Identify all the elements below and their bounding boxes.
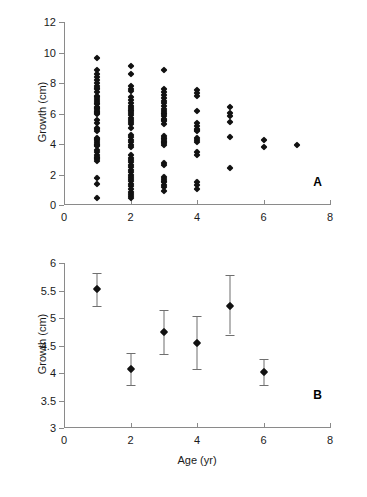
data-point <box>93 285 101 293</box>
x-tick-label: 6 <box>260 435 266 446</box>
data-point <box>126 365 134 373</box>
data-point <box>193 139 200 146</box>
y-tick <box>59 318 64 319</box>
y-tick <box>59 373 64 374</box>
data-point <box>193 339 201 347</box>
data-point <box>227 134 234 141</box>
y-tick-label: 6 <box>50 108 56 119</box>
x-axis-label-b: Age (yr) <box>177 454 216 466</box>
y-tick <box>59 53 64 54</box>
y-tick <box>59 291 64 292</box>
figure-container: 024681012 02468 Growth (cm) A 33.544.555… <box>0 0 367 497</box>
panel-a: 024681012 02468 Growth (cm) A <box>0 0 367 245</box>
x-tick-label: 8 <box>327 212 333 223</box>
data-point <box>226 302 234 310</box>
data-point <box>94 195 101 202</box>
plot-area-a: 024681012 02468 Growth (cm) A <box>64 22 330 205</box>
y-tick-label: 4 <box>50 368 56 379</box>
panel-b: 33.544.555.56 02468 Growth (cm) Age (yr)… <box>0 245 367 497</box>
error-bar-cap <box>93 273 102 274</box>
y-tick-label: 4 <box>50 139 56 150</box>
x-tick-label: 8 <box>327 435 333 446</box>
panel-label-a: A <box>313 175 322 189</box>
y-tick-label: 0 <box>50 200 56 211</box>
x-tick <box>264 423 265 428</box>
y-tick <box>59 144 64 145</box>
data-point <box>259 368 267 376</box>
y-tick <box>59 346 64 347</box>
x-tick <box>64 423 65 428</box>
y-tick-label: 3 <box>50 423 56 434</box>
data-point <box>127 62 134 69</box>
x-tick <box>330 200 331 205</box>
y-axis-a <box>64 22 65 205</box>
y-tick-label: 12 <box>44 17 56 28</box>
x-tick-label: 4 <box>194 435 200 446</box>
data-point <box>260 143 267 150</box>
data-point <box>227 118 234 125</box>
data-point <box>227 165 234 172</box>
error-bar-cap <box>159 354 168 355</box>
error-bar-cap <box>226 335 235 336</box>
data-point <box>293 142 300 149</box>
data-point <box>127 71 134 78</box>
y-tick <box>59 22 64 23</box>
y-tick <box>59 428 64 429</box>
plot-area-b: 33.544.555.56 02468 Growth (cm) Age (yr)… <box>64 263 330 428</box>
y-tick-label: 8 <box>50 78 56 89</box>
y-tick <box>59 83 64 84</box>
x-tick <box>330 423 331 428</box>
data-point <box>160 66 167 73</box>
x-tick <box>197 200 198 205</box>
y-tick-label: 6 <box>50 258 56 269</box>
data-point <box>193 107 200 114</box>
data-point <box>94 181 101 188</box>
error-bar-cap <box>193 369 202 370</box>
error-bar-cap <box>126 385 135 386</box>
y-tick-label: 3.5 <box>41 395 56 406</box>
x-tick <box>197 423 198 428</box>
x-tick-label: 6 <box>260 212 266 223</box>
error-bar-cap <box>259 359 268 360</box>
error-bar-cap <box>259 385 268 386</box>
y-tick <box>59 205 64 206</box>
panel-label-b: B <box>313 388 322 402</box>
data-point <box>127 195 134 202</box>
x-tick <box>64 200 65 205</box>
x-tick <box>264 200 265 205</box>
error-bar-cap <box>193 316 202 317</box>
data-point <box>160 328 168 336</box>
y-tick-label: 10 <box>44 47 56 58</box>
y-axis-b <box>64 263 65 428</box>
error-bar-cap <box>159 310 168 311</box>
x-tick-label: 2 <box>127 435 133 446</box>
x-tick-label: 2 <box>127 212 133 223</box>
error-bar-cap <box>226 275 235 276</box>
y-tick-label: 2 <box>50 169 56 180</box>
x-tick-label: 0 <box>61 435 67 446</box>
y-tick <box>59 263 64 264</box>
y-tick <box>59 114 64 115</box>
y-tick-label: 5 <box>50 313 56 324</box>
error-bar-cap <box>126 353 135 354</box>
x-tick-label: 4 <box>194 212 200 223</box>
x-tick-label: 0 <box>61 212 67 223</box>
y-tick-label: 5.5 <box>41 285 56 296</box>
error-bar-cap <box>93 306 102 307</box>
y-axis-label-b: Growth (cm) <box>36 313 48 374</box>
x-tick <box>131 423 132 428</box>
data-point <box>127 144 134 151</box>
y-tick <box>59 401 64 402</box>
y-tick <box>59 175 64 176</box>
y-axis-label-a: Growth (cm) <box>36 81 48 142</box>
data-point <box>94 54 101 61</box>
